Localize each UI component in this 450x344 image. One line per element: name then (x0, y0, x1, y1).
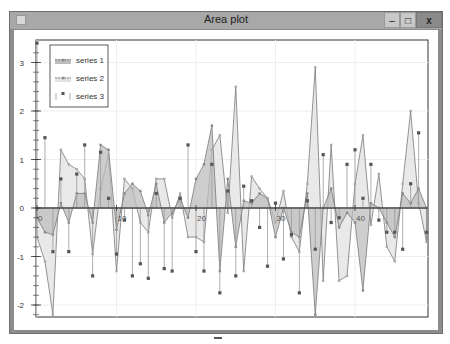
y-tick-label: 3 (20, 59, 25, 68)
legend-label: series 1 (76, 56, 105, 65)
legend-label: series 2 (76, 74, 105, 83)
maximize-button[interactable]: □ (400, 12, 416, 28)
y-tick-label: 1 (20, 156, 25, 165)
legend-label: series 3 (76, 92, 105, 101)
close-button[interactable]: x (416, 12, 442, 28)
app-window: Area plot – □ x -2-10123010203040series … (9, 11, 443, 334)
y-tick-label: 2 (20, 107, 25, 116)
y-tick-label: -2 (17, 301, 25, 310)
title-bar[interactable]: Area plot – □ x (10, 12, 442, 29)
x-tick-label: 10 (118, 214, 127, 223)
x-tick-label: 20 (197, 214, 206, 223)
window-title: Area plot (10, 13, 442, 25)
x-tick-label: 30 (277, 214, 286, 223)
x-tick-label: 0 (38, 214, 43, 223)
plot-canvas[interactable]: -2-10123010203040series 1series 2series … (14, 30, 438, 330)
y-tick-label: -1 (17, 253, 25, 262)
minimize-button[interactable]: – (384, 12, 400, 28)
legend: series 1series 2series 3 (50, 45, 108, 107)
area-chart: -2-10123010203040series 1series 2series … (14, 30, 438, 330)
y-tick-label: 0 (20, 204, 25, 213)
mouse-cursor-icon (214, 337, 222, 339)
x-tick-label: 40 (356, 214, 365, 223)
